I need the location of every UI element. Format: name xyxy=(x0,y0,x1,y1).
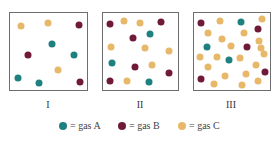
panel-label-iii: III xyxy=(226,99,236,110)
gas-c-particle-icon xyxy=(255,78,262,85)
gas-c-particle-icon xyxy=(205,64,212,71)
panel-label-i: I xyxy=(46,99,49,110)
gas-c-particle-icon xyxy=(243,71,250,78)
gas-c-particle-icon xyxy=(197,54,204,61)
gas-a-particle-icon xyxy=(238,19,245,26)
gas-a-particle-icon xyxy=(71,52,78,59)
gas-c-particle-icon xyxy=(241,30,248,37)
gas-c-particle-icon xyxy=(55,67,62,74)
gas-a-particle-icon xyxy=(146,79,153,86)
gas-c-particle-icon xyxy=(108,44,115,51)
gas-c-particle-icon xyxy=(259,16,266,23)
gas-b-particle-icon xyxy=(244,44,251,51)
gas-c-particle-icon xyxy=(166,48,173,55)
gas-b-particle-icon xyxy=(255,26,262,33)
gas-a-particle-icon xyxy=(49,41,56,48)
gas-b-particle-icon xyxy=(130,35,137,42)
gas-a-particle-icon xyxy=(15,75,22,82)
legend-item-gas-c: = gas C xyxy=(178,120,220,131)
gas-c-particle-icon xyxy=(137,20,144,27)
gas-c-particle-icon xyxy=(121,18,128,25)
gas-b-particle-icon xyxy=(166,70,173,77)
gas-b-particle-icon xyxy=(107,21,114,28)
legend-label-gas-c: = gas C xyxy=(189,120,220,131)
legend-label-gas-a: = gas A xyxy=(70,120,101,131)
gas-a-particle-icon xyxy=(204,44,211,51)
gas-a-particle-icon xyxy=(36,80,43,87)
gas-c-particle-icon xyxy=(217,18,224,25)
gas-c-particle-icon xyxy=(142,45,149,52)
legend-item-gas-b: = gas B xyxy=(118,120,160,131)
gas-c-particle-icon xyxy=(214,54,221,61)
legend-item-gas-a: = gas A xyxy=(59,120,101,131)
panel-label-ii: II xyxy=(137,99,144,110)
gas-c-particle-icon xyxy=(45,20,52,27)
gas-c-particle-icon xyxy=(256,38,263,45)
gas-c-particle-icon xyxy=(205,30,212,37)
gas-b-particle-icon xyxy=(107,78,114,85)
gas-c-particle-icon xyxy=(211,81,218,88)
gas-a-dot-icon xyxy=(59,122,67,130)
legend-label-gas-b: = gas B xyxy=(129,120,160,131)
gas-b-particle-icon xyxy=(262,69,269,76)
gas-c-particle-icon xyxy=(219,36,226,43)
gas-a-particle-icon xyxy=(109,60,116,67)
legend: = gas A = gas B = gas C xyxy=(0,120,280,134)
gas-c-particle-icon xyxy=(222,73,229,80)
gas-b-particle-icon xyxy=(132,64,139,71)
gas-c-particle-icon xyxy=(124,78,131,85)
gas-b-particle-icon xyxy=(77,79,84,86)
gas-b-particle-icon xyxy=(25,52,32,59)
gas-c-particle-icon xyxy=(228,43,235,50)
gas-c-particle-icon xyxy=(18,23,25,30)
gas-c-particle-icon xyxy=(239,82,246,89)
gas-b-particle-icon xyxy=(198,20,205,27)
gas-b-dot-icon xyxy=(118,122,126,130)
gas-b-particle-icon xyxy=(158,19,165,26)
gas-a-particle-icon xyxy=(226,57,233,64)
gas-c-particle-icon xyxy=(237,55,244,62)
gas-c-particle-icon xyxy=(253,62,260,69)
gas-c-particle-icon xyxy=(261,51,268,58)
gas-b-particle-icon xyxy=(198,76,205,83)
gas-a-particle-icon xyxy=(147,31,154,38)
gas-c-particle-icon xyxy=(149,62,156,69)
gas-b-particle-icon xyxy=(76,22,83,29)
gas-c-dot-icon xyxy=(178,122,186,130)
